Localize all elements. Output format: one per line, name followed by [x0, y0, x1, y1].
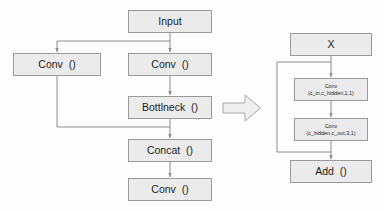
node-input-label: Input [158, 16, 181, 28]
node-conv-main-label: Conv () [151, 59, 188, 71]
node-x-label: X [327, 39, 334, 51]
node-concat-label: Concat () [147, 145, 193, 157]
node-add[interactable]: Add () [290, 160, 372, 183]
node-input[interactable]: Input [128, 10, 212, 33]
diagram-canvas: Input Conv () Conv () Bottlneck () Conca… [0, 0, 384, 211]
node-conv-3x3[interactable]: Conv (c_hidden,c_out,3,1) [294, 118, 368, 141]
expands-to-arrow-icon [222, 93, 262, 123]
node-add-label: Add () [315, 166, 347, 178]
node-conv-3x3-params: (c_hidden,c_out,3,1) [306, 130, 355, 136]
node-bottlneck-label: Bottlneck () [142, 102, 198, 114]
node-conv-left-label: Conv () [38, 59, 75, 71]
node-conv-1x1-params: (c_in,c_hidden,1,1) [308, 90, 354, 96]
node-conv-main[interactable]: Conv () [128, 53, 212, 76]
node-x[interactable]: X [290, 33, 372, 56]
node-bottlneck[interactable]: Bottlneck () [128, 96, 212, 119]
edge-input-to-conv-left [57, 41, 170, 52]
node-conv-out[interactable]: Conv () [128, 178, 212, 201]
node-conv-left[interactable]: Conv () [13, 53, 101, 76]
node-conv-out-label: Conv () [151, 184, 188, 196]
node-concat[interactable]: Concat () [128, 139, 212, 162]
node-conv-1x1[interactable]: Conv (c_in,c_hidden,1,1) [294, 78, 368, 101]
